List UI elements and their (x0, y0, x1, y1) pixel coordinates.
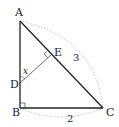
label-ac-length: 3 (73, 52, 79, 63)
label-d: D (10, 78, 19, 91)
right-angle-b-marker (20, 103, 25, 108)
bc-length-arc (20, 108, 103, 117)
angle-x-arc (20, 76, 25, 79)
label-c: C (106, 106, 114, 119)
right-angle-e-marker (44, 51, 48, 58)
triangle-diagram: A B C D E 3 2 x (0, 0, 119, 127)
label-b: B (12, 106, 20, 119)
label-a: A (14, 6, 24, 19)
label-e: E (54, 46, 62, 59)
side-ac (20, 21, 103, 108)
label-bc-length: 2 (67, 113, 73, 124)
label-angle-x: x (23, 66, 28, 76)
